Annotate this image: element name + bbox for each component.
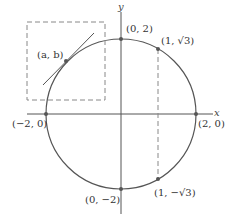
point-left: [44, 112, 48, 116]
point-ab: [64, 59, 68, 63]
label-top: (0, 2): [126, 23, 153, 34]
point-top: [119, 37, 123, 41]
unit-circle-diagram: x y (a, b) (0, 2) (1, √3) (−2, 0) (2, 0)…: [0, 0, 235, 221]
label-q1: (1, √3): [161, 35, 194, 46]
label-q4: (1, −√3): [154, 187, 196, 198]
point-q1: [156, 47, 160, 51]
y-axis-label: y: [117, 1, 124, 12]
label-right: (2, 0): [198, 118, 225, 129]
label-ab: (a, b): [37, 49, 64, 60]
label-bottom: (0, −2): [85, 194, 120, 205]
point-q4: [156, 177, 160, 181]
label-left: (−2, 0): [12, 118, 47, 129]
point-bottom: [119, 187, 123, 191]
point-right: [194, 112, 198, 116]
x-axis-label: x: [214, 107, 220, 118]
